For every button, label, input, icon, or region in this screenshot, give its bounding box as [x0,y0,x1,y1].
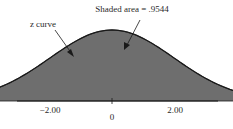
tick-label-neg2: −2.00 [40,105,61,115]
tick-label-pos2: 2.00 [167,105,183,115]
tick-label-0: 0 [110,112,115,122]
normal-curve-chart: −2.00 0 2.00 z curve Shaded area = .9544 [0,0,233,129]
z-curve-label: z curve [30,19,56,29]
shaded-area-label: Shaded area = .9544 [95,4,169,14]
shaded-area-region [0,30,233,101]
shaded-area-fill [0,30,233,101]
